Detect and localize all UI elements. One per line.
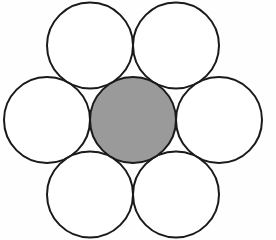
circle-top-left: top left circle [47, 3, 133, 89]
hexagonal-packing-svg: top left circletop right circlemiddle le… [0, 0, 276, 240]
circle-middle-left: middle left circle [4, 77, 90, 163]
circle-bottom-right: bottom right circle [133, 152, 219, 238]
circle-top-right: top right circle [133, 3, 219, 89]
center-circle-group: center circle [90, 77, 176, 163]
figure-canvas: top left circletop right circlemiddle le… [0, 0, 276, 240]
circle-middle-right: middle right circle [176, 77, 262, 163]
circle-bottom-left: bottom left circle [47, 152, 133, 238]
circle-center: center circle [90, 77, 176, 163]
